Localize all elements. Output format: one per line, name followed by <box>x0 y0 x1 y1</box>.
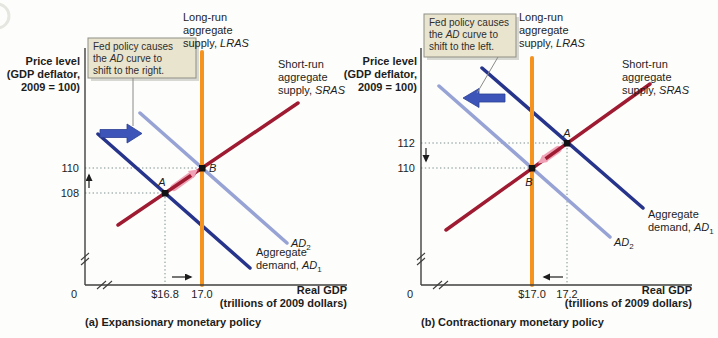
y-tick-108: 108 <box>61 187 79 199</box>
origin-label: 0 <box>71 288 77 300</box>
callout-line1: Fed policy causes <box>93 41 173 52</box>
sras-curve <box>118 103 298 225</box>
x-axis-title-2: (trillions of 2009 dollars) <box>565 297 692 309</box>
callout-line1: Fed policy causes <box>429 17 509 28</box>
ad1-label: Aggregate <box>648 208 699 220</box>
sras-label-2: aggregate <box>622 71 672 83</box>
lras-label-2: aggregate <box>519 24 569 36</box>
lras-label: Long-run <box>183 11 227 23</box>
sras-label-3: supply, SRAS <box>622 84 690 96</box>
lras-label-2: aggregate <box>183 24 233 36</box>
point-A-label: A <box>562 127 570 139</box>
origin-label: 0 <box>407 288 413 300</box>
lras-label: Long-run <box>519 11 563 23</box>
x-tick-17-0: 17.0 <box>191 288 212 300</box>
point-A <box>564 140 571 147</box>
y-axis-title-3: 2009 = 100) <box>358 81 417 93</box>
ad1-label-2: demand, AD1 <box>648 221 714 236</box>
callout-line2: the AD curve to <box>429 29 498 40</box>
panel-a: Fed policy causes the AD curve to shift … <box>7 11 347 328</box>
point-A-label: A <box>157 176 165 188</box>
callout-line2: the AD curve to <box>93 53 162 64</box>
x-tick-17-0: $17.0 <box>518 288 546 300</box>
y-axis-title-2: (GDP deflator, <box>344 68 417 80</box>
y-axis-title-2: (GDP deflator, <box>7 68 80 80</box>
x-axis-title: Real GDP <box>642 284 692 296</box>
ad2-label: AD2 <box>613 236 634 251</box>
sras-label: Short-run <box>278 58 324 70</box>
sras-label-3: supply, SRAS <box>278 84 346 96</box>
y-tick-110: 110 <box>61 162 79 174</box>
point-B <box>199 165 206 172</box>
point-B-label: B <box>209 162 216 174</box>
x-axis-title: Real GDP <box>297 284 347 296</box>
callout-line3: shift to the right. <box>93 65 164 76</box>
y-axis-title: Price level <box>363 55 417 67</box>
figure-canvas: Fed policy causes the AD curve to shift … <box>0 0 718 338</box>
point-B-label: B <box>525 176 532 188</box>
panel-b: Fed policy causes the AD curve to shift … <box>344 11 714 328</box>
ad-shift-left-arrow <box>463 89 505 108</box>
x-tick-16-8: $16.8 <box>151 288 179 300</box>
sras-label: Short-run <box>622 58 668 70</box>
y-tick-112: 112 <box>397 137 415 149</box>
point-B <box>529 165 536 172</box>
callout-line3: shift to the left. <box>429 41 494 52</box>
y-axis-title: Price level <box>26 55 80 67</box>
figure-monetary-policy: Fed policy causes the AD curve to shift … <box>0 0 718 338</box>
ad1-curve <box>98 134 250 268</box>
ad2-curve <box>439 86 610 237</box>
lras-label-3: supply, LRAS <box>519 37 585 49</box>
sras-label-2: aggregate <box>278 71 328 83</box>
panel-b-caption: (b) Contractionary monetary policy <box>421 316 605 328</box>
page-bleed-artifact <box>0 4 9 28</box>
lras-label-3: supply, LRAS <box>183 37 249 49</box>
ad1-label-2: demand, AD1 <box>256 259 322 274</box>
panel-a-caption: (a) Expansionary monetary policy <box>85 316 262 328</box>
y-axis-title-3: 2009 = 100) <box>21 81 80 93</box>
x-axis-title-2: (trillions of 2009 dollars) <box>220 297 347 309</box>
y-tick-110: 110 <box>397 162 415 174</box>
point-A <box>162 190 169 197</box>
callout-leader <box>477 57 498 93</box>
